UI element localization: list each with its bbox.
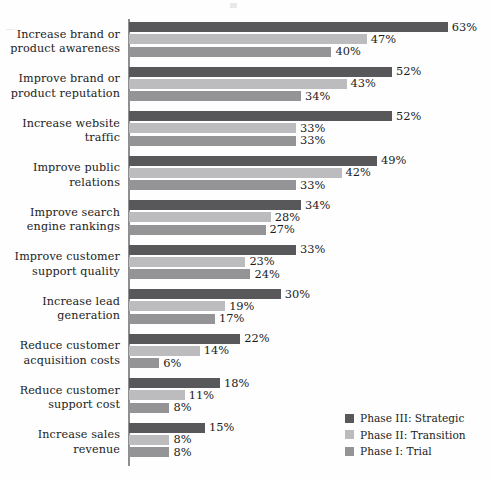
bar-row: 33% xyxy=(129,123,490,133)
category-label-line: support quality xyxy=(32,265,120,279)
bar[interactable] xyxy=(129,423,205,433)
bar[interactable] xyxy=(129,156,377,166)
bar[interactable] xyxy=(129,301,225,311)
bar-row: 33% xyxy=(129,136,490,146)
bar-value-label: 34% xyxy=(301,89,330,103)
bar-group: 30%19%17% xyxy=(129,289,490,330)
bar-row: 47% xyxy=(129,34,490,44)
bar-group: 63%47%40% xyxy=(129,22,490,63)
bar[interactable] xyxy=(129,67,392,77)
category-label-line: Improve search xyxy=(30,206,120,220)
bar[interactable] xyxy=(129,212,271,222)
bar-value-label: 33% xyxy=(296,242,325,256)
bar[interactable] xyxy=(129,123,296,133)
bar-value-label: 15% xyxy=(205,420,234,434)
bar[interactable] xyxy=(129,225,266,235)
bar[interactable] xyxy=(129,390,185,400)
category-label-line: acquisition costs xyxy=(24,354,120,368)
bar[interactable] xyxy=(129,111,392,121)
category-label: Improve brand orproduct reputation xyxy=(0,65,120,110)
bar[interactable] xyxy=(129,34,367,44)
bar[interactable] xyxy=(129,91,301,101)
bar[interactable] xyxy=(129,334,240,344)
bar[interactable] xyxy=(129,22,448,32)
category-group: Improve searchengine rankings34%28%27% xyxy=(0,198,490,243)
bar-value-label: 30% xyxy=(281,287,310,301)
bar-value-label: 52% xyxy=(392,64,421,78)
bar-value-label: 42% xyxy=(342,165,371,179)
bar[interactable] xyxy=(129,435,169,445)
category-label-line: Improve customer xyxy=(15,250,120,264)
bar[interactable] xyxy=(129,245,296,255)
bar-group: 34%28%27% xyxy=(129,200,490,241)
bar-row: 18% xyxy=(129,378,490,388)
category-label-line: product reputation xyxy=(11,87,120,101)
bar-row: 6% xyxy=(129,358,490,368)
bar-group: 52%33%33% xyxy=(129,111,490,152)
bar-row: 22% xyxy=(129,334,490,344)
category-group: Improve publicrelations49%42%33% xyxy=(0,154,490,199)
category-label: Increase salesrevenue xyxy=(0,421,120,466)
bar-value-label: 6% xyxy=(159,356,181,370)
category-label-line: engine rankings xyxy=(27,220,120,234)
bar-group: 49%42%33% xyxy=(129,156,490,197)
category-label-line: Improve public xyxy=(33,161,120,175)
bar[interactable] xyxy=(129,269,250,279)
bar[interactable] xyxy=(129,168,342,178)
category-group: Reduce customeracquisition costs22%14%6% xyxy=(0,332,490,377)
category-label-line: relations xyxy=(69,176,120,190)
bar-value-label: 47% xyxy=(367,32,396,46)
bar[interactable] xyxy=(129,314,215,324)
category-label-line: generation xyxy=(57,309,120,323)
legend-label: Phase II: Transition xyxy=(360,429,466,441)
bar-value-label: 49% xyxy=(377,153,406,167)
bar-row: 19% xyxy=(129,301,490,311)
legend-item[interactable]: Phase I: Trial xyxy=(345,444,485,458)
category-group: Increase brand orproduct awareness63%47%… xyxy=(0,20,490,65)
bar-row: 52% xyxy=(129,67,490,77)
bar-row: 11% xyxy=(129,390,490,400)
category-label: Increase websitetraffic xyxy=(0,109,120,154)
legend-swatch-icon xyxy=(345,414,354,423)
bar-value-label: 63% xyxy=(448,20,477,34)
bar[interactable] xyxy=(129,378,220,388)
bar-value-label: 40% xyxy=(331,44,360,58)
bar-row: 14% xyxy=(129,346,490,356)
bar-row: 23% xyxy=(129,257,490,267)
bar[interactable] xyxy=(129,200,301,210)
category-group: Improve brand orproduct reputation52%43%… xyxy=(0,65,490,110)
category-label-line: product awareness xyxy=(10,42,120,56)
category-label-line: Reduce customer xyxy=(20,339,120,353)
category-label: Reduce customersupport cost xyxy=(0,376,120,421)
category-group: Improve customersupport quality33%23%24% xyxy=(0,243,490,288)
bar[interactable] xyxy=(129,289,281,299)
legend-item[interactable]: Phase III: Strategic xyxy=(345,411,485,425)
bar-group: 33%23%24% xyxy=(129,245,490,286)
bar[interactable] xyxy=(129,447,169,457)
bar-row: 33% xyxy=(129,245,490,255)
bar[interactable] xyxy=(129,358,159,368)
category-label: Increase brand orproduct awareness xyxy=(0,20,120,65)
bar-row: 27% xyxy=(129,225,490,235)
legend-item[interactable]: Phase II: Transition xyxy=(345,428,485,442)
category-group: Increase leadgeneration30%19%17% xyxy=(0,287,490,332)
legend-swatch-icon xyxy=(345,430,354,439)
bar[interactable] xyxy=(129,257,245,267)
bar-row: 52% xyxy=(129,111,490,121)
legend-swatch-icon xyxy=(345,447,354,456)
category-label-line: revenue xyxy=(73,443,120,457)
bar-value-label: 33% xyxy=(296,178,325,192)
bar-row: 24% xyxy=(129,269,490,279)
bar[interactable] xyxy=(129,79,347,89)
bar[interactable] xyxy=(129,403,169,413)
category-label-line: traffic xyxy=(85,131,120,145)
bar-value-label: 43% xyxy=(347,76,376,90)
bar[interactable] xyxy=(129,136,296,146)
legend-label: Phase III: Strategic xyxy=(360,412,464,424)
bar-row: 17% xyxy=(129,314,490,324)
bar[interactable] xyxy=(129,180,296,190)
category-group: Increase websitetraffic52%33%33% xyxy=(0,109,490,154)
bar[interactable] xyxy=(129,346,200,356)
bar-value-label: 14% xyxy=(200,343,229,357)
bar[interactable] xyxy=(129,47,331,57)
